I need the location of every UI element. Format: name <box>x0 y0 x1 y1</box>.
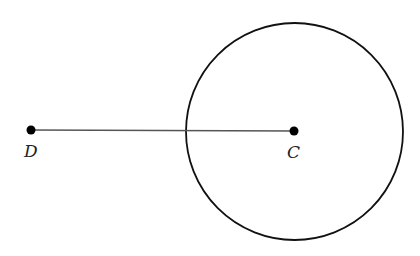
geometry-diagram: D C <box>0 0 420 256</box>
point-c <box>290 127 299 136</box>
segment-dc <box>31 130 294 131</box>
point-d <box>27 126 36 135</box>
label-c: C <box>287 142 300 162</box>
label-d: D <box>23 141 38 161</box>
